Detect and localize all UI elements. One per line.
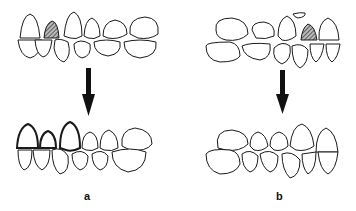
panel-a-before-lower-teeth <box>18 39 156 62</box>
panel-a-after-lower-teeth <box>18 149 146 174</box>
displaced-fragment <box>293 13 305 18</box>
panel-b-after-upper-teeth <box>217 124 338 152</box>
panel-a-before-upper-teeth <box>20 12 158 39</box>
panel-label-b: b <box>276 190 283 202</box>
panel-a-after-upper-teeth <box>17 122 152 151</box>
hatched-tooth <box>301 24 317 40</box>
arrow-down-icon-b <box>276 70 289 114</box>
panel-b-before-lower-teeth <box>206 42 340 68</box>
arrow-down-icon-a <box>82 68 95 116</box>
panel-b-after-lower-teeth <box>206 150 338 179</box>
dental-diagram <box>0 0 356 211</box>
panel-label-a: a <box>84 190 90 202</box>
panel-b-before-upper-teeth <box>216 13 339 41</box>
hatched-tooth <box>44 21 59 38</box>
